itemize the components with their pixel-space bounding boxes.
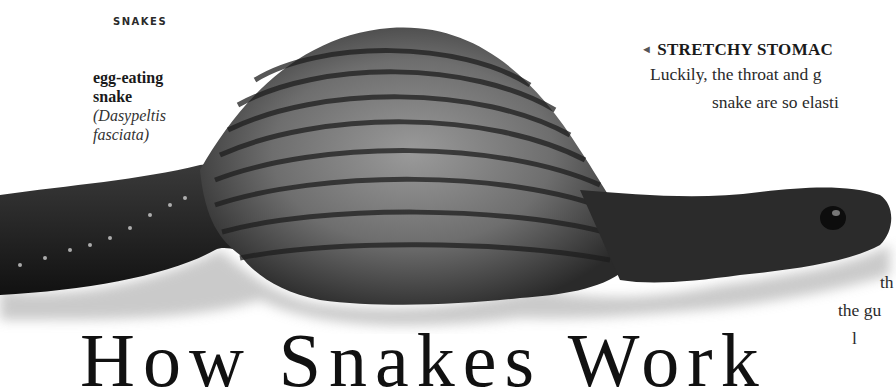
snake-eye [820, 206, 846, 230]
species-caption: egg-eating snake (Dasypeltis fasciata) [93, 68, 223, 144]
sidebar-text-line: Luckily, the throat and g [650, 64, 821, 85]
latin-name-line2: fasciata) [93, 125, 223, 144]
latin-name-line1: (Dasypeltis [93, 106, 223, 125]
section-label: SNAKES [113, 16, 167, 27]
sidebar-heading: ◄STRETCHY STOMAC [641, 40, 833, 60]
sidebar-text-line: th [880, 272, 894, 293]
sidebar-text-line: l [852, 328, 857, 349]
sidebar-text-line: the gu [838, 300, 881, 321]
common-name-line2: snake [93, 87, 223, 106]
pointer-arrow-icon: ◄ [641, 43, 652, 55]
sidebar-heading-text: STRETCHY STOMAC [657, 40, 833, 59]
sidebar-text-line: snake are so elasti [712, 92, 839, 113]
common-name-line1: egg-eating [93, 68, 223, 87]
page-title: How Snakes Work [80, 322, 767, 391]
